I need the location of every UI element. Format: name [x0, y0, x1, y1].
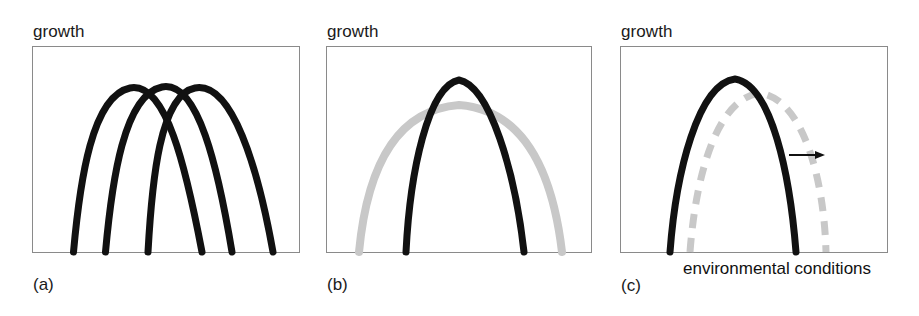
panel-c-x-axis-label: environmental conditions [683, 260, 871, 277]
panel-c-tag: (c) [621, 277, 641, 294]
panel-c-shifted-curve-gray-dashed [690, 93, 826, 252]
panel-c: growth environmental conditions (c) [0, 0, 311, 316]
figure-root: growth (a) growth (b) growth [0, 0, 919, 316]
